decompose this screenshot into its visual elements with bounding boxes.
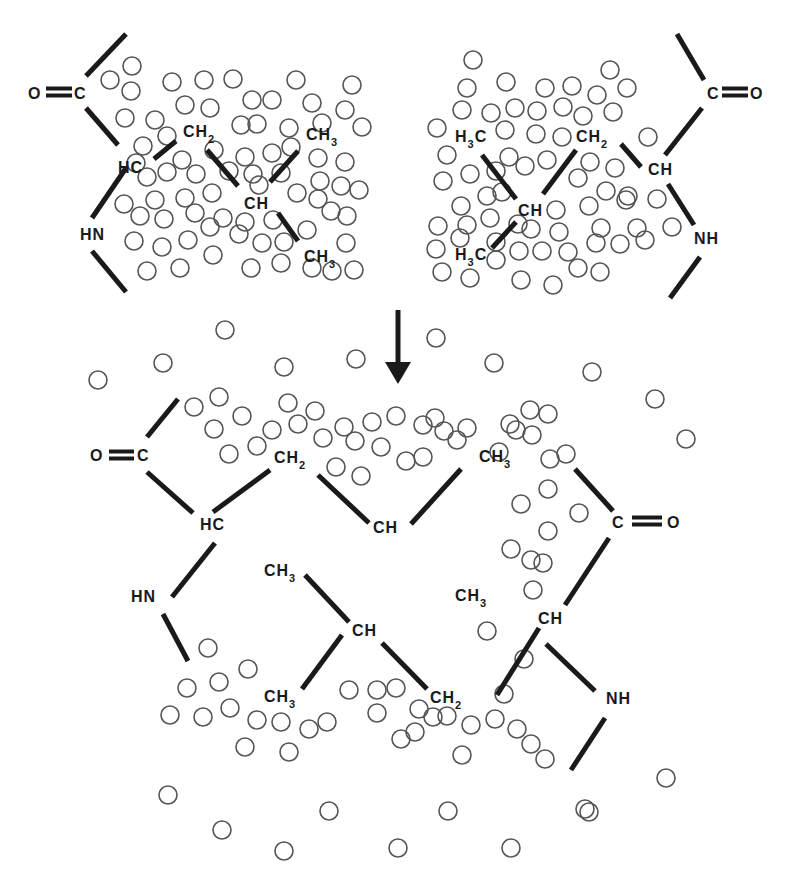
single-bond [318, 475, 369, 523]
water-molecule-icon [352, 467, 370, 485]
water-molecule-icon [663, 218, 681, 236]
water-molecule-icon [533, 242, 551, 260]
water-molecule-icon [452, 197, 470, 215]
water-molecule-icon [287, 71, 305, 89]
water-molecule-icon [134, 137, 152, 155]
water-molecule-icon [414, 448, 432, 466]
single-bond [147, 472, 193, 513]
water-molecule-icon [464, 51, 482, 69]
water-molecule-icon [263, 144, 281, 162]
water-molecule-icon [186, 204, 204, 222]
water-molecule-icon [580, 197, 598, 215]
water-molecule-icon [347, 350, 365, 368]
water-molecule-icon [588, 86, 606, 104]
atom-label-tl-c: C [74, 85, 87, 102]
water-molecule-icon [557, 445, 575, 463]
water-molecule-icon [527, 125, 545, 143]
water-molecule-icon [179, 231, 197, 249]
reaction-arrow [385, 310, 411, 384]
water-molecule-icon [125, 232, 143, 250]
single-bond [665, 108, 702, 155]
water-molecule-icon [448, 431, 466, 449]
atom-label-b-ch3-topright: CH3 [479, 448, 511, 470]
water-molecule-icon [368, 704, 386, 722]
water-molecule-icon [563, 77, 581, 95]
atom-label-b-ch-right: CH [538, 610, 563, 627]
water-molecule-icon [553, 128, 571, 146]
water-molecule-icon [506, 99, 524, 117]
single-bond [86, 34, 126, 76]
water-molecule-icon [583, 363, 601, 381]
atom-label-tl-ch2: CH2 [183, 123, 215, 145]
water-molecule-icon [397, 452, 415, 470]
water-molecule-icon [510, 242, 528, 260]
water-molecule-icon [453, 101, 471, 119]
water-molecule-icon [363, 413, 381, 431]
water-molecule-icon [438, 146, 456, 164]
diagram-canvas: OCHCCH2CHCH3CH3HNCOCHCH2CHH3CH3CNHOCHCCH… [0, 0, 794, 890]
water-molecule-icon [547, 201, 565, 219]
water-molecule-icon [486, 710, 504, 728]
atom-label-tr-h3c-top: H3C [455, 128, 487, 150]
water-molecule-icon [250, 176, 268, 194]
single-bond [207, 150, 238, 186]
water-molecule-icon [289, 415, 307, 433]
water-molecule-icon [435, 422, 453, 440]
water-molecule-icon [601, 61, 619, 79]
water-molecule-icon [453, 746, 471, 764]
water-molecule-icon [346, 432, 364, 450]
water-molecule-icon [275, 233, 293, 251]
atom-label-tr-nh: NH [694, 230, 719, 247]
atom-label-tl-ch3-top: CH3 [306, 126, 338, 148]
water-molecule-icon [458, 79, 476, 97]
water-molecule-icon [604, 103, 622, 121]
water-molecule-icon [429, 217, 447, 235]
water-molecule-icon [502, 839, 520, 857]
water-molecule-icon [539, 522, 557, 540]
water-molecule-icon [236, 738, 254, 756]
water-molecule-icon [239, 660, 257, 678]
water-molecule-icon [204, 246, 222, 264]
water-molecule-icon [677, 430, 695, 448]
water-molecule-icon [288, 184, 306, 202]
water-molecule-icon [236, 148, 254, 166]
water-molecule-icon [368, 681, 386, 699]
water-molecule-icon [570, 504, 588, 522]
water-molecule-icon [387, 679, 405, 697]
water-molecule-icon [536, 750, 554, 768]
water-molecule-icon [131, 207, 149, 225]
atom-label-b-ch2-top: CH2 [274, 449, 306, 471]
water-molecule-icon [224, 70, 242, 88]
water-molecule-icon [199, 639, 217, 657]
water-molecule-icon [338, 207, 356, 225]
water-molecule-icon [248, 711, 266, 729]
water-molecule-icon [580, 803, 598, 821]
water-molecule-icon [158, 163, 176, 181]
water-molecule-icon [657, 769, 675, 787]
atom-label-b-hc: HC [200, 516, 225, 533]
water-molecule-icon [350, 181, 368, 199]
atom-label-tr-ch2: CH2 [576, 128, 608, 150]
atom-label-tr-ch: CH [648, 161, 673, 178]
water-molecule-icon [512, 271, 530, 289]
water-molecule-icon [636, 231, 654, 249]
water-molecule-icon [220, 445, 238, 463]
water-molecule-icon [248, 437, 266, 455]
water-molecule-icon [581, 153, 599, 171]
water-molecule-icon [201, 99, 219, 117]
atom-label-b-ch-mid: CH [373, 519, 398, 536]
water-molecule-icon [205, 420, 223, 438]
water-molecule-icon [337, 234, 355, 252]
water-molecule-icon [410, 700, 428, 718]
water-molecule-icon [611, 235, 629, 253]
water-molecule-icon [194, 708, 212, 726]
water-molecule-icon [161, 706, 179, 724]
water-molecule-icon [187, 165, 205, 183]
water-molecule-icon [203, 184, 221, 202]
single-bond [546, 644, 595, 691]
water-molecule-icon [591, 263, 609, 281]
water-molecule-icon [439, 802, 457, 820]
atom-label-b-o1: O [90, 447, 103, 464]
water-molecule-icon [253, 234, 271, 252]
water-molecule-icon [275, 358, 293, 376]
